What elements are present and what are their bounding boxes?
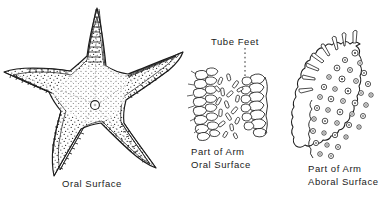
caption-whole-oral-surface: Oral Surface [62,178,122,191]
mouth-center-dot [94,104,96,106]
arm-aboral-outline [292,42,362,148]
tube-feet-group [214,74,243,140]
caption-arm-oral: Part of Arm Oral Surface [191,146,251,171]
arm-oral-detail [187,48,268,141]
caption-arm-oral-line1: Part of Arm [191,146,251,159]
caption-arm-aboral-line1: Part of Arm [308,163,379,176]
caption-arm-aboral-line2: Aboral Surface [308,176,379,189]
caption-arm-aboral: Part of Arm Aboral Surface [308,163,379,188]
arm-oral-right-edge [265,77,268,134]
callout-tube-feet: Tube Feet [211,36,259,49]
figure-root: Oral Surface Tube Feet Part of Arm Oral … [0,0,386,200]
arm-aboral-detail [292,30,374,158]
caption-arm-oral-line2: Oral Surface [191,159,251,172]
starfish-whole-body [4,8,183,176]
